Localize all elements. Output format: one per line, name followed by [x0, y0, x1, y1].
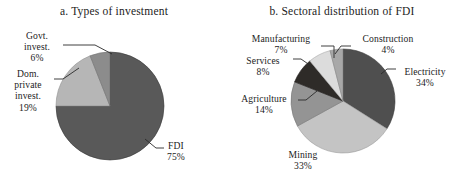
leader-line-services — [292, 56, 316, 70]
label-mining-pct: 33% — [276, 160, 330, 171]
label-electricity-pct: 34% — [394, 77, 456, 88]
label-construction: Construction 4% — [350, 33, 426, 55]
label-agriculture-pct: 14% — [228, 104, 300, 115]
panel-a-title: a. Types of investment — [0, 4, 228, 18]
label-services-name: Services — [246, 55, 279, 66]
label-electricity: Electricity 34% — [394, 66, 456, 88]
label-govt-invest-name2: invest. — [24, 41, 50, 52]
leader-line-electricity — [380, 66, 398, 76]
leader-line-govt-invest — [62, 42, 117, 58]
label-govt-invest-name: Govt. — [26, 30, 48, 41]
leader-line-construction — [334, 44, 354, 60]
label-manufacturing: Manufacturing 7% — [229, 33, 333, 55]
label-agriculture: Agriculture 14% — [228, 93, 300, 115]
figure-two-pie-charts: a. Types of investment Govt. invest. 6% … — [0, 0, 456, 179]
label-manufacturing-pct: 7% — [229, 44, 333, 55]
label-dom-private-invest-l3: invest. — [2, 90, 54, 101]
label-agriculture-name: Agriculture — [241, 93, 286, 104]
panel-types-of-investment: a. Types of investment Govt. invest. 6% … — [0, 0, 228, 179]
label-construction-pct: 4% — [350, 44, 426, 55]
leader-line-agriculture — [297, 90, 319, 104]
label-dom-private-invest-pct: 19% — [2, 102, 54, 113]
label-dom-private-invest-l2: private — [2, 79, 54, 90]
label-govt-invest: Govt. invest. 6% — [8, 30, 66, 64]
label-electricity-name: Electricity — [404, 66, 445, 77]
leader-line-fdi — [144, 138, 166, 154]
leader-line-dom-private-invest — [53, 66, 83, 82]
label-mining: Mining 33% — [276, 149, 330, 171]
label-services: Services 8% — [232, 55, 294, 77]
label-mining-name: Mining — [289, 149, 318, 160]
label-services-pct: 8% — [232, 66, 294, 77]
label-dom-private-invest-l1: Dom. — [17, 68, 39, 79]
label-manufacturing-name: Manufacturing — [252, 33, 310, 44]
panel-sectoral-distribution-fdi: b. Sectoral distribution of FDI Manufact… — [228, 0, 456, 179]
label-construction-name: Construction — [363, 33, 414, 44]
label-dom-private-invest: Dom. private invest. 19% — [2, 68, 54, 113]
panel-b-title: b. Sectoral distribution of FDI — [228, 4, 456, 18]
label-fdi-name: FDI — [168, 140, 184, 151]
label-govt-invest-pct: 6% — [8, 52, 66, 63]
